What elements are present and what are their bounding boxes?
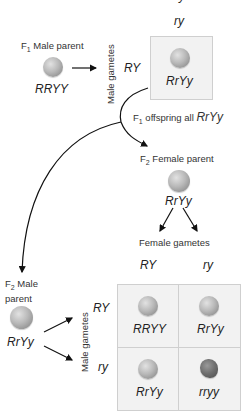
f1-male-parent-label: F1 Male parent xyxy=(21,40,84,53)
wrinkled-pea-icon xyxy=(200,359,218,378)
cutoff-label: ry xyxy=(175,0,185,3)
f2-male-genotype: RrYy xyxy=(7,335,34,349)
f2-female-parent-label: F2 Female parent xyxy=(140,153,214,166)
to-f2-male-arrow xyxy=(22,122,121,272)
pea-icon xyxy=(43,57,63,77)
punnett-genotype: RrYy xyxy=(197,322,224,336)
pea-icon xyxy=(10,306,33,329)
f2-female-genotype: RrYy xyxy=(165,194,192,208)
female-gamete-arrow-ry xyxy=(183,208,197,231)
punnett-genotype: rryy xyxy=(199,385,219,399)
male-gamete-ry: ry xyxy=(98,360,108,374)
punnett-cell-RrYy-1 xyxy=(178,284,241,348)
f1-offspring-genotype: RrYy xyxy=(166,74,193,88)
female-gamete-RY: RY xyxy=(140,258,156,272)
punnett-cell-RrYy-2 xyxy=(117,347,179,411)
male-gamete-arrow-ry xyxy=(44,346,72,360)
f1-male-gamete: RY xyxy=(124,61,140,75)
male-gametes-label: Male gametes xyxy=(105,44,116,104)
to-f2-female-arrow xyxy=(121,122,147,146)
pea-icon xyxy=(168,170,190,192)
f1-female-gamete: ry xyxy=(174,14,184,28)
f2-male-parent-label: F2 Maleparent xyxy=(5,278,38,304)
f1-offspring-cell xyxy=(150,36,213,100)
male-gamete-arrow-RY xyxy=(44,318,72,332)
female-gametes-label: Female gametes xyxy=(139,237,210,248)
f2-male-gametes-label: Male gametes xyxy=(79,312,90,372)
f1-offspring-caption: F1 offspring all RrYy xyxy=(133,110,223,125)
punnett-cell-rryy xyxy=(178,347,241,411)
female-gamete-arrow-RY xyxy=(160,208,173,231)
punnett-genotype: RrYy xyxy=(136,385,163,399)
female-gamete-ry: ry xyxy=(203,258,213,272)
pea-icon xyxy=(138,296,158,316)
male-gamete-RY: RY xyxy=(93,301,109,315)
f1-male-genotype: RRYY xyxy=(35,82,68,96)
pea-icon xyxy=(170,48,190,68)
pea-icon xyxy=(138,359,158,379)
punnett-genotype: RRYY xyxy=(133,322,166,336)
pea-icon xyxy=(199,296,219,316)
punnett-cell-RRYY xyxy=(117,284,179,348)
